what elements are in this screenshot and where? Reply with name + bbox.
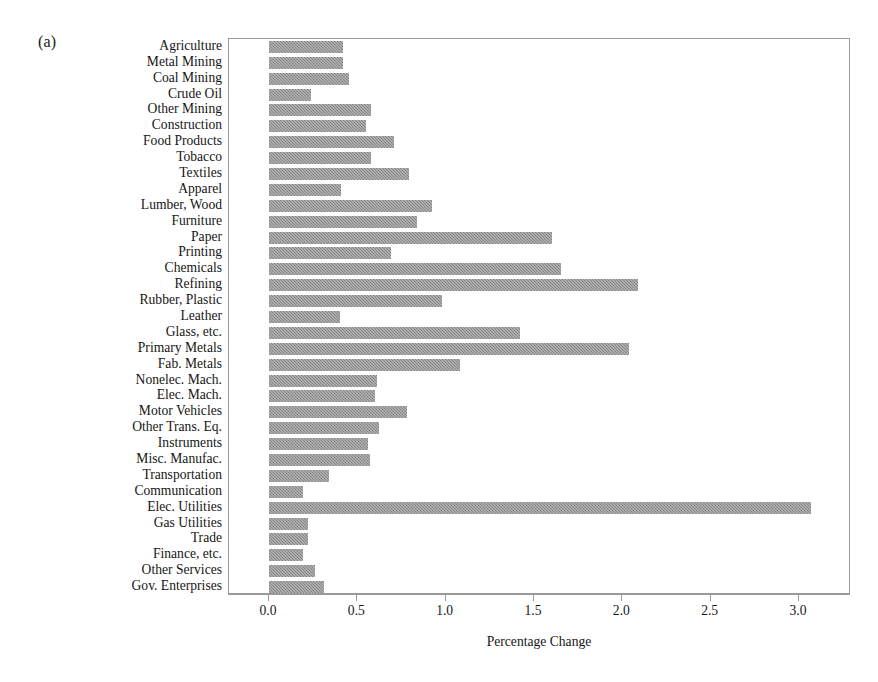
bar — [269, 486, 303, 498]
y-axis-label: Apparel — [60, 182, 222, 196]
y-axis-label: Agriculture — [60, 39, 222, 53]
bar — [269, 359, 460, 371]
y-axis-label: Elec. Utilities — [60, 500, 222, 514]
y-axis-label: Rubber, Plastic — [60, 293, 222, 307]
bar — [269, 104, 371, 116]
y-axis-label: Construction — [60, 118, 222, 132]
y-axis-category-labels: AgricultureMetal MiningCoal MiningCrude … — [60, 38, 222, 594]
x-axis-tick-label: 1.0 — [415, 603, 475, 619]
y-axis-label: Food Products — [60, 134, 222, 148]
bar — [269, 263, 561, 275]
bar — [269, 200, 432, 212]
bar — [269, 311, 340, 323]
x-axis: 0.00.51.01.52.02.53.0 — [228, 594, 850, 595]
bar — [269, 120, 366, 132]
y-axis-label: Glass, etc. — [60, 325, 222, 339]
y-axis-label: Motor Vehicles — [60, 404, 222, 418]
y-axis-label: Gas Utilities — [60, 516, 222, 530]
bars-container — [229, 39, 849, 593]
bar — [269, 216, 417, 228]
x-axis-title: Percentage Change — [228, 634, 850, 650]
bar — [269, 57, 343, 69]
bar — [269, 375, 377, 387]
y-axis-label: Paper — [60, 230, 222, 244]
y-axis-label: Refining — [60, 277, 222, 291]
bar — [269, 89, 311, 101]
x-axis-tick — [356, 594, 357, 601]
x-axis-tick — [710, 594, 711, 601]
x-axis-tick — [533, 594, 534, 601]
y-axis-label: Printing — [60, 245, 222, 259]
bar — [269, 406, 407, 418]
x-axis-tick-label: 2.0 — [591, 603, 651, 619]
bar — [269, 390, 375, 402]
bar — [269, 327, 520, 339]
x-axis-tick — [621, 594, 622, 601]
bar — [269, 343, 629, 355]
bar — [269, 73, 349, 85]
bar — [269, 41, 343, 53]
y-axis-label: Tobacco — [60, 150, 222, 164]
plot-area — [228, 38, 850, 594]
x-axis-tick — [445, 594, 446, 601]
bar — [269, 581, 324, 593]
x-axis-tick-label: 2.5 — [680, 603, 740, 619]
y-axis-label: Coal Mining — [60, 71, 222, 85]
x-axis-tick-label: 0.0 — [238, 603, 298, 619]
y-axis-label: Textiles — [60, 166, 222, 180]
y-axis-label: Nonelec. Mach. — [60, 373, 222, 387]
y-axis-label: Communication — [60, 484, 222, 498]
bar — [269, 295, 442, 307]
bar — [269, 533, 308, 545]
bar — [269, 136, 394, 148]
bar — [269, 247, 391, 259]
y-axis-label: Metal Mining — [60, 55, 222, 69]
bar — [269, 502, 811, 514]
bar — [269, 470, 329, 482]
bar — [269, 152, 371, 164]
x-axis-tick — [798, 594, 799, 601]
y-axis-label: Furniture — [60, 214, 222, 228]
panel-label: (a) — [38, 33, 56, 51]
x-axis-tick-label: 3.0 — [768, 603, 828, 619]
y-axis-label: Lumber, Wood — [60, 198, 222, 212]
bar — [269, 549, 303, 561]
x-axis-tick — [268, 594, 269, 601]
bar — [269, 168, 409, 180]
y-axis-label: Other Trans. Eq. — [60, 420, 222, 434]
y-axis-label: Transportation — [60, 468, 222, 482]
x-axis-tick-label: 0.5 — [326, 603, 386, 619]
y-axis-label: Finance, etc. — [60, 547, 222, 561]
bar — [269, 184, 341, 196]
x-axis-tick-label: 1.5 — [503, 603, 563, 619]
y-axis-label: Elec. Mach. — [60, 388, 222, 402]
bar — [269, 422, 379, 434]
y-axis-label: Leather — [60, 309, 222, 323]
y-axis-label: Other Services — [60, 563, 222, 577]
bar — [269, 438, 368, 450]
bar — [269, 454, 370, 466]
y-axis-label: Chemicals — [60, 261, 222, 275]
y-axis-label: Crude Oil — [60, 87, 222, 101]
bar — [269, 232, 552, 244]
bar — [269, 565, 315, 577]
figure-panel-a: (a) AgricultureMetal MiningCoal MiningCr… — [0, 0, 878, 682]
y-axis-label: Primary Metals — [60, 341, 222, 355]
y-axis-label: Trade — [60, 531, 222, 545]
y-axis-label: Misc. Manufac. — [60, 452, 222, 466]
y-axis-label: Fab. Metals — [60, 357, 222, 371]
y-axis-label: Other Mining — [60, 102, 222, 116]
bar — [269, 518, 308, 530]
y-axis-label: Instruments — [60, 436, 222, 450]
y-axis-label: Gov. Enterprises — [60, 579, 222, 593]
bar — [269, 279, 638, 291]
